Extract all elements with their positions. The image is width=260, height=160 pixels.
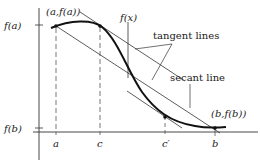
y-label-fa: f(a) bbox=[3, 20, 22, 31]
x-label-a: a bbox=[53, 138, 59, 149]
point-c bbox=[98, 24, 102, 28]
label-tangent-lines: tangent lines bbox=[153, 30, 219, 41]
tangent-label-leader-2 bbox=[152, 44, 172, 80]
label-secant-line: secant line bbox=[170, 72, 225, 83]
x-label-c: c bbox=[97, 138, 103, 149]
label-function: f(x) bbox=[119, 12, 137, 23]
tangent-line-c-prime bbox=[127, 91, 182, 128]
label-point-a: (a,f(a)) bbox=[46, 6, 81, 17]
point-a bbox=[54, 24, 58, 28]
tangent-label-leader-1 bbox=[135, 44, 172, 49]
y-label-fb: f(b) bbox=[3, 123, 22, 134]
label-point-b: (b,f(b)) bbox=[211, 108, 246, 119]
point-b bbox=[213, 126, 217, 130]
point-c-prime bbox=[163, 115, 167, 119]
mean-value-theorem-diagram: f(a) f(b) a c c′ b (a,f(a)) (b,f(b)) f(x… bbox=[0, 0, 260, 160]
x-label-c-prime: c′ bbox=[162, 138, 171, 149]
x-label-b: b bbox=[212, 138, 218, 149]
